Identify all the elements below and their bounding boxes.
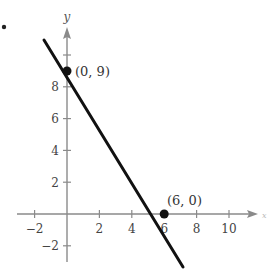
chart: −2 2 4 6 8 10 x −2 2 4 6 8 y (0, 9) (6, … <box>0 0 267 271</box>
x-tick-label: 2 <box>96 222 104 236</box>
y-tick-label: 8 <box>51 80 59 94</box>
point-y-intercept-label: (0, 9) <box>75 64 110 79</box>
x-axis-label: x <box>262 211 267 220</box>
y-axis: −2 2 4 6 8 y <box>41 10 71 262</box>
y-tick-label: 2 <box>51 176 59 190</box>
point-y-intercept <box>63 67 72 76</box>
y-axis-label: y <box>63 10 71 24</box>
x-tick-label: −2 <box>26 222 44 236</box>
y-tick-label: 6 <box>51 112 59 126</box>
y-tick-label: 4 <box>51 144 59 158</box>
x-axis: −2 2 4 6 8 10 x <box>17 210 267 236</box>
list-bullet <box>2 25 6 29</box>
point-x-intercept <box>160 210 169 219</box>
x-tick-label: 4 <box>128 222 136 236</box>
x-tick-label: 10 <box>221 222 236 236</box>
point-x-intercept-label: (6, 0) <box>167 193 202 208</box>
y-tick-label: −2 <box>41 239 59 253</box>
x-tick-label: 8 <box>193 222 201 236</box>
